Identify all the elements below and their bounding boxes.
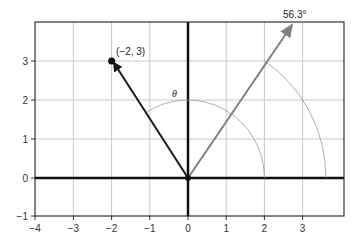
vector-diagram: (−2, 3) 56.3° θ −4 −3 −2 −1 0 1 2 3 −1 0…	[0, 0, 361, 246]
svg-text:−3: −3	[68, 223, 80, 234]
angle-label: 56.3°	[283, 9, 306, 20]
svg-text:−2: −2	[106, 223, 118, 234]
svg-text:2: 2	[262, 223, 268, 234]
svg-text:−1: −1	[144, 223, 156, 234]
svg-text:0: 0	[22, 173, 28, 184]
origin-marker	[185, 175, 191, 181]
point-label: (−2, 3)	[116, 46, 145, 57]
point-marker	[108, 58, 115, 65]
svg-text:1: 1	[22, 134, 28, 145]
svg-text:1: 1	[223, 223, 229, 234]
theta-label: θ	[172, 88, 177, 99]
y-tick-labels: −1 0 1 2 3	[17, 56, 29, 222]
grid	[35, 22, 344, 216]
x-tick-labels: −4 −3 −2 −1 0 1 2 3	[29, 223, 306, 234]
tick-marks	[31, 61, 303, 220]
svg-text:3: 3	[22, 56, 28, 67]
svg-text:−4: −4	[29, 223, 41, 234]
svg-text:3: 3	[300, 223, 306, 234]
svg-text:−1: −1	[17, 211, 29, 222]
angle-arc	[264, 61, 326, 178]
svg-text:0: 0	[185, 223, 191, 234]
black-vector	[114, 63, 188, 178]
plot-frame	[35, 22, 344, 216]
svg-text:2: 2	[22, 95, 28, 106]
